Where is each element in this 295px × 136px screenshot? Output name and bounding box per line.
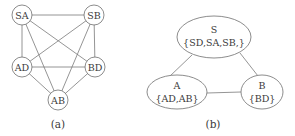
node-a-set: {AD,AB} bbox=[155, 93, 198, 104]
edge-s-a bbox=[169, 55, 192, 77]
caption-a: (a) bbox=[51, 118, 65, 130]
caption-b: (b) bbox=[206, 118, 221, 130]
node-sb: SB bbox=[84, 5, 104, 25]
node-ad: AD bbox=[12, 57, 32, 77]
node-s-set: {SD,SA,SB,} bbox=[183, 37, 245, 48]
node-ab: AB bbox=[48, 90, 68, 110]
node-b-set: {BD} bbox=[249, 93, 276, 104]
node-b: B {BD} bbox=[241, 75, 283, 109]
diagram-canvas: SA SB AD BD AB (a) S {SD,SA,SB,} A {AD,A… bbox=[0, 0, 295, 136]
figure-a-edges bbox=[22, 15, 95, 100]
node-ab-label: AB bbox=[50, 95, 65, 106]
edge-s-b bbox=[240, 53, 258, 76]
node-a: A {AD,AB} bbox=[147, 75, 207, 109]
node-sa: SA bbox=[12, 5, 32, 25]
node-bd: BD bbox=[85, 57, 105, 77]
node-sb-label: SB bbox=[87, 10, 101, 21]
node-bd-label: BD bbox=[88, 62, 103, 73]
node-ad-label: AD bbox=[14, 62, 30, 73]
node-s-name: S bbox=[211, 24, 218, 35]
node-b-name: B bbox=[259, 80, 266, 91]
edge-a-b bbox=[207, 92, 241, 93]
node-a-name: A bbox=[173, 80, 181, 91]
node-s: S {SD,SA,SB,} bbox=[177, 16, 251, 58]
node-sa-label: SA bbox=[15, 10, 29, 21]
